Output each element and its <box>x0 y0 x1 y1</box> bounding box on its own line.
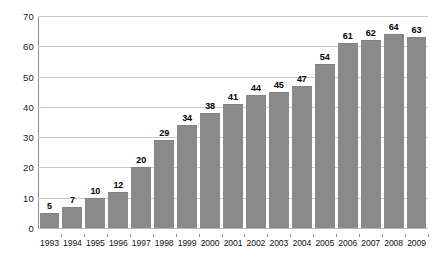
bar-slot: 38 <box>199 16 222 228</box>
y-tick-label-60: 60 <box>10 42 34 52</box>
bar-slot: 63 <box>405 16 428 228</box>
x-tick-label-2008: 2008 <box>382 239 405 248</box>
x-tick-mark-2005 <box>336 234 337 237</box>
x-tick-mark-1997 <box>153 234 154 237</box>
x-tick-mark-2008 <box>405 234 406 237</box>
x-tick-mark-1995 <box>107 234 108 237</box>
x-tick-mark-1996 <box>130 234 131 237</box>
bar-slot: 29 <box>153 16 176 228</box>
x-tick-label-1995: 1995 <box>84 239 107 248</box>
bar-2006 <box>338 43 358 228</box>
x-tick-label-1994: 1994 <box>61 239 84 248</box>
bar-value-label-2003: 45 <box>267 81 290 90</box>
y-axis-labels: 010203040506070 <box>4 0 34 256</box>
x-tick-mark-1999 <box>199 234 200 237</box>
bar-2002 <box>246 95 266 228</box>
bar-1995 <box>85 198 105 228</box>
bar-slot: 20 <box>130 16 153 228</box>
bar-value-label-1996: 12 <box>107 181 130 190</box>
bar-slot: 54 <box>313 16 336 228</box>
bar-2008 <box>384 34 404 228</box>
bar-slot: 12 <box>107 16 130 228</box>
bar-value-label-2007: 62 <box>359 29 382 38</box>
x-tick-mark-1993 <box>61 234 62 237</box>
x-tick-label-2000: 2000 <box>199 239 222 248</box>
bar-value-label-1995: 10 <box>84 187 107 196</box>
x-tick-mark-2006 <box>359 234 360 237</box>
x-tick-mark-2004 <box>313 234 314 237</box>
x-tick-label-1999: 1999 <box>176 239 199 248</box>
x-tick-label-2001: 2001 <box>222 239 245 248</box>
bar-1993 <box>40 213 60 228</box>
bar-value-label-1994: 7 <box>61 196 84 205</box>
bar-slot: 45 <box>267 16 290 228</box>
y-tick-label-50: 50 <box>10 73 34 83</box>
bar-2003 <box>269 92 289 228</box>
bar-value-label-2006: 61 <box>336 32 359 41</box>
bar-value-label-2008: 64 <box>382 23 405 32</box>
bar-chart: 010203040506070 571012202934384144454754… <box>0 0 439 256</box>
x-tick-label-2006: 2006 <box>336 239 359 248</box>
bar-1999 <box>177 125 197 228</box>
y-tick-label-70: 70 <box>10 12 34 22</box>
bar-value-label-2005: 54 <box>313 53 336 62</box>
bar-slot: 34 <box>176 16 199 228</box>
bar-slot: 62 <box>359 16 382 228</box>
x-tick-label-2004: 2004 <box>290 239 313 248</box>
bar-2005 <box>315 64 335 228</box>
x-tick-label-2003: 2003 <box>267 239 290 248</box>
x-tick-label-2002: 2002 <box>244 239 267 248</box>
bar-2007 <box>361 40 381 228</box>
bar-slot: 61 <box>336 16 359 228</box>
x-tick-label-2007: 2007 <box>359 239 382 248</box>
bar-2004 <box>292 86 312 228</box>
bar-1994 <box>62 207 82 228</box>
bar-slot: 47 <box>290 16 313 228</box>
bar-1997 <box>131 167 151 228</box>
x-tick-mark-1994 <box>84 234 85 237</box>
bar-slot: 44 <box>244 16 267 228</box>
x-tick-label-1998: 1998 <box>153 239 176 248</box>
bar-value-label-2001: 41 <box>222 93 245 102</box>
x-tick-mark-2001 <box>244 234 245 237</box>
x-tick-mark-2007 <box>382 234 383 237</box>
x-axis-labels: 1993199419951996199719981999200020012002… <box>38 234 428 248</box>
x-tick-mark-2003 <box>290 234 291 237</box>
x-tick-label-1993: 1993 <box>38 239 61 248</box>
x-tick-mark-1998 <box>176 234 177 237</box>
y-tick-label-0: 0 <box>10 224 34 234</box>
x-tick-label-2009: 2009 <box>405 239 428 248</box>
bar-value-label-2009: 63 <box>405 26 428 35</box>
bar-slot: 41 <box>222 16 245 228</box>
bar-slot: 5 <box>38 16 61 228</box>
x-tick-label-1996: 1996 <box>107 239 130 248</box>
bar-2000 <box>200 113 220 228</box>
bar-value-label-2000: 38 <box>199 102 222 111</box>
x-tick-label-2005: 2005 <box>313 239 336 248</box>
y-tick-label-20: 20 <box>10 163 34 173</box>
bar-value-label-1999: 34 <box>176 114 199 123</box>
bar-value-label-1997: 20 <box>130 156 153 165</box>
gridline-0 <box>38 228 428 229</box>
bar-2009 <box>407 37 427 228</box>
x-tick-mark-2002 <box>267 234 268 237</box>
bar-1996 <box>108 192 128 228</box>
bar-value-label-2004: 47 <box>290 75 313 84</box>
x-tick-mark-2009 <box>428 234 429 237</box>
bar-value-label-2002: 44 <box>244 84 267 93</box>
bar-value-label-1998: 29 <box>153 129 176 138</box>
bar-value-label-1993: 5 <box>38 202 61 211</box>
y-tick-label-30: 30 <box>10 133 34 143</box>
y-tick-label-10: 10 <box>10 194 34 204</box>
plot-area: 57101220293438414445475461626463 <box>38 16 428 228</box>
bar-1998 <box>154 140 174 228</box>
bar-2001 <box>223 104 243 228</box>
bar-slot: 10 <box>84 16 107 228</box>
x-tick-label-1997: 1997 <box>130 239 153 248</box>
bar-slot: 7 <box>61 16 84 228</box>
y-tick-label-40: 40 <box>10 103 34 113</box>
bar-slot: 64 <box>382 16 405 228</box>
x-tick-mark-2000 <box>222 234 223 237</box>
